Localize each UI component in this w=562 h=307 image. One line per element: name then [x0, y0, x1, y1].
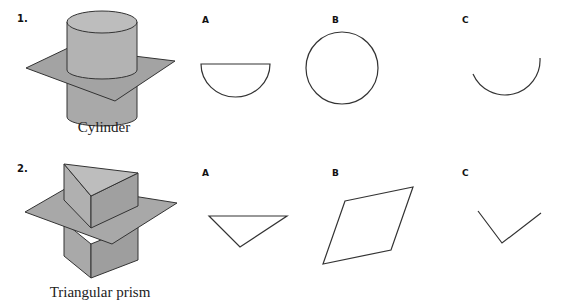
- option-2a-label: A: [202, 168, 209, 178]
- option-1c-arc: [473, 58, 540, 95]
- option-2a-triangle: [209, 216, 287, 247]
- option-1c-label: C: [462, 15, 469, 25]
- prism-figure: [25, 164, 177, 278]
- option-2c-label: C: [462, 168, 469, 178]
- option-2b-label: B: [332, 168, 339, 178]
- option-1b-circle: [306, 32, 378, 104]
- problem-2-caption: Triangular prism: [20, 284, 180, 301]
- option-2c-angle: [478, 211, 541, 243]
- problem-2-number: 2.: [17, 163, 28, 174]
- option-2b-parallelogram: [323, 187, 413, 264]
- option-1a-label: A: [202, 15, 209, 25]
- option-1a-semicircle: [201, 64, 270, 97]
- problem-1-caption: Cylinder: [54, 119, 154, 136]
- problem-1-number: 1.: [17, 13, 28, 24]
- cylinder-figure: [26, 11, 175, 126]
- diagram: 1. Cylinder A B C 2. Triangular prism A …: [0, 0, 562, 307]
- figures-canvas: [0, 0, 562, 307]
- option-1b-label: B: [332, 15, 339, 25]
